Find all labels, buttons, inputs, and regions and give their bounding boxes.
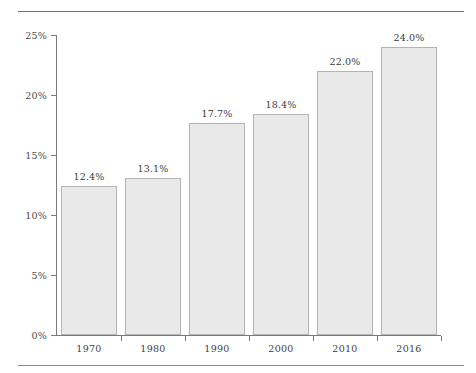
y-axis-tick-label: 5% xyxy=(0,270,47,281)
y-axis-tick-label: 25% xyxy=(0,30,47,41)
y-axis-tick-label: 10% xyxy=(0,210,47,221)
y-axis-tick-label: 20% xyxy=(0,90,47,101)
bar xyxy=(381,47,437,335)
x-axis-tick xyxy=(249,336,250,341)
y-axis-tick xyxy=(51,215,57,216)
y-axis-tick xyxy=(51,335,57,336)
y-axis-tick xyxy=(51,35,57,36)
bar-chart: 0%5%10%15%20%25% 19701980199020002010201… xyxy=(0,0,476,373)
bar-value-label: 24.0% xyxy=(369,32,449,43)
y-axis-tick-label: 0% xyxy=(0,330,47,341)
bar xyxy=(125,178,181,335)
bar xyxy=(317,71,373,335)
x-axis-tick xyxy=(185,336,186,341)
y-axis-tick-label: 15% xyxy=(0,150,47,161)
x-axis-category-label: 1970 xyxy=(54,343,124,354)
x-axis-tick xyxy=(121,336,122,341)
chart-page: 0%5%10%15%20%25% 19701980199020002010201… xyxy=(0,0,476,373)
bar-value-label: 18.4% xyxy=(241,99,321,110)
bar-value-label: 22.0% xyxy=(305,56,385,67)
bar xyxy=(253,114,309,335)
x-axis-category-label: 2016 xyxy=(374,343,444,354)
x-axis-tick xyxy=(377,336,378,341)
bar xyxy=(61,186,117,335)
y-axis-line xyxy=(56,35,57,336)
x-axis-category-label: 1990 xyxy=(182,343,252,354)
x-axis-tick xyxy=(313,336,314,341)
y-axis-tick xyxy=(51,275,57,276)
x-axis-category-label: 2010 xyxy=(310,343,380,354)
y-axis-tick xyxy=(51,155,57,156)
bar xyxy=(189,123,245,335)
y-axis-tick xyxy=(51,95,57,96)
x-axis-category-label: 2000 xyxy=(246,343,316,354)
bar-value-label: 13.1% xyxy=(113,163,193,174)
x-axis-category-label: 1980 xyxy=(118,343,188,354)
x-axis-end-tick xyxy=(441,336,442,341)
